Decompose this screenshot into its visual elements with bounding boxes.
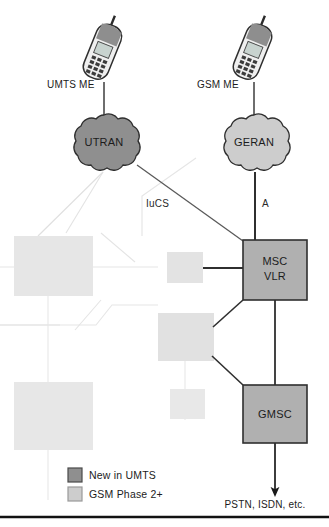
edge-msc-midcenter	[213, 300, 243, 327]
diagram-canvas: UTRAN GERAN MSC VLR GMSC UMTS ME GSM ME …	[0, 0, 329, 527]
cloud-node-utran[interactable]: UTRAN	[74, 114, 140, 170]
gsm-me-label: GSM ME	[197, 79, 239, 90]
node-msc-vlr[interactable]: MSC VLR	[243, 240, 307, 300]
faded-box-mid-upper	[167, 252, 203, 283]
faded-link-horizontal-mid	[0, 305, 158, 325]
legend-swatch-gsm-phase-2plus	[68, 487, 82, 501]
faded-link-diag-a	[101, 233, 135, 262]
edge-midcenter-gmsc	[212, 356, 243, 385]
legend: New in UMTS GSM Phase 2+	[68, 468, 163, 501]
vlr-label: VLR	[264, 270, 286, 282]
faded-box-left-lower	[14, 382, 93, 450]
mobile-phone-icon-gsm	[230, 12, 279, 83]
a-interface-label: A	[262, 198, 269, 209]
pstn-isdn-label: PSTN, ISDN, etc.	[225, 499, 306, 510]
iucs-interface-label: IuCS	[146, 198, 169, 209]
umts-me-label: UMTS ME	[47, 79, 95, 90]
msc-label: MSC	[262, 255, 287, 267]
legend-label-new-in-umts: New in UMTS	[89, 469, 156, 481]
gmsc-label: GMSC	[258, 408, 292, 420]
network-diagram: UTRAN GERAN MSC VLR GMSC UMTS ME GSM ME …	[0, 0, 329, 527]
legend-swatch-new-in-umts	[68, 468, 82, 482]
geran-label: GERAN	[234, 136, 274, 148]
cloud-node-geran[interactable]: GERAN	[224, 114, 290, 170]
faded-link-geran-mid	[142, 158, 196, 236]
faded-box-left-upper	[14, 236, 93, 296]
mobile-phone-icon-umts	[80, 12, 129, 83]
legend-label-gsm-phase-2plus: GSM Phase 2+	[89, 488, 163, 500]
utran-label: UTRAN	[85, 136, 124, 148]
faded-box-mid-center	[158, 313, 214, 361]
faded-box-mid-lower	[170, 389, 205, 419]
faded-background-layer	[0, 158, 214, 500]
node-gmsc[interactable]: GMSC	[243, 385, 307, 443]
